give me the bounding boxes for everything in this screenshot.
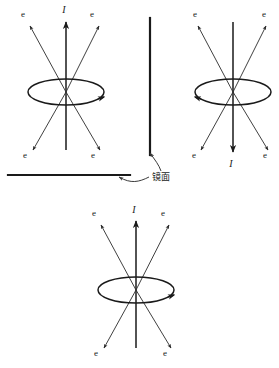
electron-label-upper-right-bottom: e <box>161 208 165 218</box>
loop-direction-arrow-mirror <box>195 97 201 99</box>
mirror-leader-horizontal <box>119 177 149 182</box>
mirror-label: 镜面 <box>152 171 170 182</box>
current-label-bottom: I <box>131 204 136 215</box>
current-label-mirror: I <box>228 158 233 169</box>
current-label-original: I <box>61 4 66 15</box>
electron-ray-upper-right-mirror <box>233 26 266 92</box>
electron-label-lower-left-bottom: e <box>94 348 98 358</box>
loop-direction-arrow-bottom <box>168 295 174 297</box>
electron-ray-upper-left-mirror <box>198 26 233 92</box>
loop-direction-arrow-original <box>98 97 104 99</box>
diagram-mirror-image: I e e e e <box>192 9 271 169</box>
electron-ray-upper-left-original <box>30 26 66 92</box>
electron-label-upper-left-mirror: e <box>193 9 197 19</box>
mirror-leader-vertical <box>150 153 161 171</box>
diagram-original: I e e e e <box>21 4 104 160</box>
electron-label-lower-right-original: e <box>91 150 95 160</box>
figure-canvas: I e e e e I e e e e <box>0 0 279 368</box>
electron-label-lower-right-mirror: e <box>263 150 267 160</box>
physics-figure: I e e e e I e e e e <box>0 0 279 368</box>
mirror-surfaces: 镜面 <box>8 18 170 182</box>
electron-label-lower-left-mirror: e <box>192 150 196 160</box>
diagram-actual-reflection: I e e e e <box>92 204 174 358</box>
electron-ray-upper-left-bottom <box>101 225 136 290</box>
electron-label-upper-left-original: e <box>21 9 25 19</box>
electron-label-upper-left-bottom: e <box>92 208 96 218</box>
electron-label-upper-right-original: e <box>90 9 94 19</box>
electron-label-lower-right-bottom: e <box>163 348 167 358</box>
electron-ray-upper-right-bottom <box>136 225 169 290</box>
electron-ray-upper-right-original <box>66 26 99 92</box>
electron-label-upper-right-mirror: e <box>262 9 266 19</box>
electron-label-lower-left-original: e <box>23 150 27 160</box>
